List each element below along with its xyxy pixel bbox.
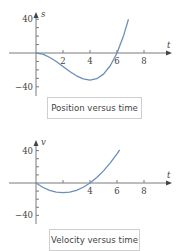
velocity-x-tick-label: 8 xyxy=(141,186,146,196)
y-axis-arrow-icon xyxy=(34,12,39,18)
velocity-x-tick-label: 6 xyxy=(114,186,119,196)
position-chart-caption: Position versus time xyxy=(47,97,142,119)
x-axis-arrow-icon xyxy=(166,181,172,186)
position-y-tick-label: 40 xyxy=(22,14,33,24)
position-x-tick-label: 8 xyxy=(141,56,146,66)
position-x-axis-label: t xyxy=(167,40,171,50)
velocity-x-axis-label: t xyxy=(167,170,171,180)
position-series-line xyxy=(36,19,128,80)
position-y-tick-label: −40 xyxy=(15,82,33,92)
velocity-series-line xyxy=(36,150,120,193)
x-axis-arrow-icon xyxy=(166,51,172,56)
position-y-axis-label: s xyxy=(41,9,46,19)
y-axis-arrow-icon xyxy=(34,140,39,146)
velocity-y-tick-label: 40 xyxy=(22,146,33,156)
position-x-tick-label: 4 xyxy=(87,56,92,66)
velocity-x-tick-label: 4 xyxy=(87,186,92,196)
velocity-chart-caption: Velocity versus time xyxy=(49,229,140,251)
velocity-y-tick-label: −40 xyxy=(15,210,33,220)
velocity-y-axis-label: v xyxy=(41,137,46,147)
